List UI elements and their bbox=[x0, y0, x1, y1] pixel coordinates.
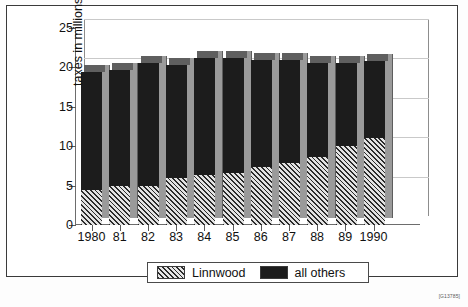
bar-87 bbox=[279, 60, 300, 225]
bar-top-face bbox=[169, 58, 190, 65]
bar-1980 bbox=[81, 72, 102, 225]
legend-label-all-others: all others bbox=[295, 266, 346, 280]
bar-segment-linnwood bbox=[194, 175, 215, 225]
bar-segment-all-others bbox=[81, 72, 102, 189]
bar-top-face bbox=[310, 56, 331, 63]
bar-83 bbox=[166, 65, 187, 225]
y-tick-label-15: 15 bbox=[59, 101, 73, 113]
chart-figure: 0510152025 19808182838485868788891990 ta… bbox=[0, 0, 468, 307]
bar-segment-all-others bbox=[138, 63, 159, 186]
bar-81 bbox=[109, 70, 130, 225]
bar-segment-linnwood bbox=[109, 186, 130, 225]
bar-top-face bbox=[254, 53, 275, 60]
chart-frame: 0510152025 19808182838485868788891990 ta… bbox=[6, 5, 458, 277]
bar-top-face bbox=[339, 56, 360, 63]
bar-85 bbox=[223, 58, 244, 225]
bar-top-face bbox=[84, 65, 105, 72]
legend-item-all-others: all others bbox=[260, 266, 360, 280]
bar-segment-all-others bbox=[109, 70, 130, 186]
bar-88 bbox=[307, 63, 328, 225]
bar-top-face bbox=[367, 54, 388, 61]
solid-black-swatch bbox=[260, 266, 288, 279]
bar-segment-all-others bbox=[194, 58, 215, 175]
bar-segment-linnwood bbox=[279, 163, 300, 225]
bar-top-face bbox=[197, 51, 218, 58]
bar-segment-all-others bbox=[251, 60, 272, 167]
hatch-swatch bbox=[157, 266, 185, 279]
chart-legend: Linnwood all others bbox=[147, 262, 369, 283]
bar-segment-linnwood bbox=[223, 173, 244, 225]
bar-segment-linnwood bbox=[81, 190, 102, 225]
y-axis-title: taxes in millions bbox=[71, 0, 85, 86]
bar-segment-all-others bbox=[223, 58, 244, 173]
gridline-25 bbox=[84, 19, 429, 20]
legend-item-linnwood: Linnwood bbox=[157, 266, 260, 280]
bar-segment-all-others bbox=[307, 63, 328, 157]
y-tick-label-5: 5 bbox=[66, 180, 73, 192]
bar-segment-linnwood bbox=[166, 178, 187, 225]
bar-segment-all-others bbox=[166, 65, 187, 178]
legend-label-linnwood: Linnwood bbox=[192, 266, 246, 280]
bar-top-face bbox=[282, 53, 303, 60]
plot-area: 0510152025 19808182838485868788891990 ta… bbox=[75, 28, 420, 225]
bar-segment-linnwood bbox=[336, 146, 357, 225]
x-tick-label-1990: 1990 bbox=[356, 231, 392, 244]
bar-82 bbox=[138, 63, 159, 225]
bar-segment-linnwood bbox=[138, 186, 159, 225]
bar-top-face bbox=[226, 51, 247, 58]
bar-segment-linnwood bbox=[307, 157, 328, 225]
bar-segment-linnwood bbox=[251, 167, 272, 225]
bar-1990 bbox=[364, 61, 385, 225]
bar-segment-all-others bbox=[336, 63, 357, 147]
y-tick-label-10: 10 bbox=[59, 140, 73, 152]
bar-89 bbox=[336, 63, 357, 225]
bar-84 bbox=[194, 58, 215, 225]
bar-segment-linnwood bbox=[364, 138, 385, 225]
bar-top-face bbox=[112, 63, 133, 70]
bar-segment-all-others bbox=[279, 60, 300, 163]
bar-86 bbox=[251, 60, 272, 225]
bar-top-face bbox=[141, 56, 162, 63]
y-tick-label-0: 0 bbox=[66, 219, 73, 231]
bar-segment-all-others bbox=[364, 61, 385, 138]
figure-code-label: [G13785] bbox=[439, 293, 460, 299]
bar-side-face bbox=[385, 54, 393, 218]
